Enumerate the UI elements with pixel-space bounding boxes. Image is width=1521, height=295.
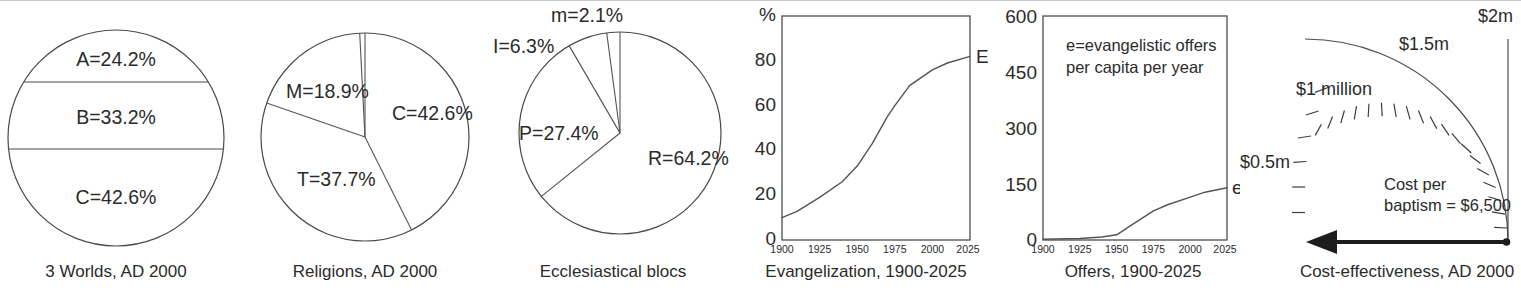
offers-annotation-line1: e=evangelistic offers bbox=[1066, 36, 1217, 54]
cost-note-line1: Cost per bbox=[1384, 175, 1447, 193]
evangelization-series-line bbox=[782, 56, 970, 217]
radius-p-i bbox=[569, 46, 620, 133]
cost-note-line2: baptism = $6,500 bbox=[1384, 196, 1511, 214]
offers-chart: 600 450 300 150 0 e=evangelistic offers … bbox=[988, 0, 1240, 295]
x-tick-1925: 1925 bbox=[808, 243, 832, 255]
slice-label-a: A=24.2% bbox=[76, 48, 156, 70]
x-tick-2000: 2000 bbox=[921, 243, 945, 255]
pointer-arrowhead bbox=[1306, 230, 1337, 254]
x-tick-1950: 1950 bbox=[1105, 243, 1129, 255]
x-tick-1900: 1900 bbox=[1031, 243, 1055, 255]
series-label-e: e bbox=[1232, 177, 1240, 198]
y-tick-20: 20 bbox=[755, 183, 776, 204]
y-tick-450: 450 bbox=[1005, 62, 1037, 83]
plot-frame bbox=[782, 16, 970, 240]
panel-caption-religions: Religions, AD 2000 bbox=[293, 262, 438, 281]
panel-three-worlds: A=24.2% B=33.2% C=42.6% 3 Worlds, AD 200… bbox=[0, 0, 250, 295]
panel-caption-blocs: Ecclesiastical blocs bbox=[540, 262, 686, 281]
slice-label-b: B=33.2% bbox=[76, 106, 156, 128]
religions-chart: C=42.6% M=18.9% T=37.7% Religions, AD 20… bbox=[252, 0, 492, 295]
panel-caption-offers: Offers, 1900-2025 bbox=[1065, 262, 1202, 281]
y-tick-60: 60 bbox=[755, 94, 776, 115]
y-tick-40: 40 bbox=[755, 138, 776, 159]
offers-series-line bbox=[1043, 188, 1227, 240]
offers-annotation-line2: per capita per year bbox=[1066, 58, 1204, 76]
y-tick-150: 150 bbox=[1005, 174, 1037, 195]
x-tick-1950: 1950 bbox=[846, 243, 870, 255]
panel-caption-three-worlds: 3 Worlds, AD 2000 bbox=[45, 262, 186, 281]
panel-religions: C=42.6% M=18.9% T=37.7% Religions, AD 20… bbox=[252, 0, 492, 295]
panel-offers: 600 450 300 150 0 e=evangelistic offers … bbox=[988, 0, 1240, 295]
figure-panel-strip: A=24.2% B=33.2% C=42.6% 3 Worlds, AD 200… bbox=[0, 0, 1521, 295]
radius-i-m bbox=[607, 33, 620, 133]
radius-t-m bbox=[267, 103, 365, 137]
x-tick-1925: 1925 bbox=[1068, 243, 1092, 255]
dial-label-2m: $2m bbox=[1478, 6, 1513, 26]
x-tick-2000: 2000 bbox=[1179, 243, 1203, 255]
y-axis-title: % bbox=[759, 4, 776, 25]
ecclesiastical-blocs-chart: R=64.2% P=27.4% I=6.3% m=2.1% Ecclesiast… bbox=[488, 0, 738, 295]
dial-label-1-5m: $1.5m bbox=[1399, 34, 1449, 54]
slice-label-i: I=6.3% bbox=[493, 35, 554, 57]
pointer-origin-dot bbox=[1503, 238, 1511, 246]
panel-caption-cost-effectiveness: Cost-effectiveness, AD 2000 bbox=[1300, 262, 1514, 281]
slice-label-c: C=42.6% bbox=[392, 102, 473, 124]
x-tick-1975: 1975 bbox=[1142, 243, 1166, 255]
dial-label-1-million: $1 million bbox=[1296, 79, 1372, 99]
cost-effectiveness-chart: $0.5m $1 million $1.5m $2m Cost per bapt… bbox=[1240, 0, 1521, 295]
x-tick-2025: 2025 bbox=[956, 243, 980, 255]
three-worlds-chart: A=24.2% B=33.2% C=42.6% 3 Worlds, AD 200… bbox=[0, 0, 250, 295]
y-tick-600: 600 bbox=[1005, 6, 1037, 27]
evangelization-chart: % 0 20 40 60 80 E 1900 1925 1950 1975 20… bbox=[736, 0, 988, 295]
panel-caption-evangelization: Evangelization, 1900-2025 bbox=[765, 262, 966, 281]
slice-label-r: R=64.2% bbox=[648, 147, 729, 169]
slice-label-t: T=37.7% bbox=[297, 168, 376, 190]
panel-evangelization: % 0 20 40 60 80 E 1900 1925 1950 1975 20… bbox=[736, 0, 988, 295]
panel-cost-effectiveness: $0.5m $1 million $1.5m $2m Cost per bapt… bbox=[1240, 0, 1521, 295]
x-tick-1975: 1975 bbox=[883, 243, 907, 255]
slice-label-c: C=42.6% bbox=[76, 186, 157, 208]
x-tick-2025: 2025 bbox=[1213, 243, 1237, 255]
slice-label-p: P=27.4% bbox=[519, 122, 599, 144]
x-tick-1900: 1900 bbox=[770, 243, 794, 255]
y-tick-80: 80 bbox=[755, 49, 776, 70]
y-tick-300: 300 bbox=[1005, 118, 1037, 139]
panel-ecclesiastical-blocs: R=64.2% P=27.4% I=6.3% m=2.1% Ecclesiast… bbox=[488, 0, 738, 295]
dial-label-0-5m: $0.5m bbox=[1240, 152, 1290, 172]
series-label-e: E bbox=[976, 46, 988, 67]
slice-label-m: m=2.1% bbox=[551, 4, 623, 26]
slice-label-m: M=18.9% bbox=[286, 80, 369, 102]
